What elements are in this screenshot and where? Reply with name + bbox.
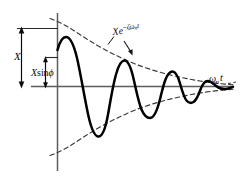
amplitude-label: X [14, 51, 21, 62]
envelope-callout-leader [124, 41, 133, 56]
initial-displacement-function: sin [37, 67, 48, 78]
envelope-exponent-subscript: n [134, 25, 137, 31]
envelope-label-underline [108, 37, 114, 45]
lower-envelope-curve [50, 89, 234, 155]
x-axis-subscript: n [216, 78, 220, 86]
damped-vibration-figure: X Xsinϕ Xe−ζωnt ωnt [0, 0, 245, 183]
initial-displacement-label: Xsinϕ [31, 68, 54, 78]
x-axis-omega: ω [209, 73, 216, 84]
upper-envelope-curve [50, 19, 234, 85]
initial-displacement-phase: ϕ [48, 67, 53, 78]
x-axis-time: t [220, 72, 223, 83]
envelope-exponent: −ζωnt [122, 21, 139, 32]
axis-label-leader [228, 82, 236, 84]
x-axis-label: ωnt [209, 74, 222, 84]
